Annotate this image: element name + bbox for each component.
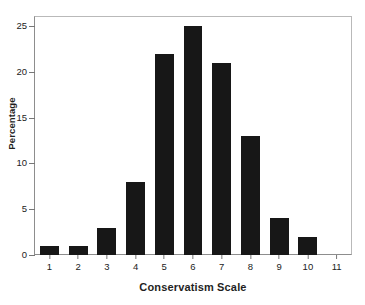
x-axis-tick-label: 2 (75, 261, 80, 272)
bar (298, 237, 317, 255)
x-axis-tick: 1 (47, 255, 52, 272)
x-axis-tick-label: 8 (248, 261, 253, 272)
y-axis-tick-label: 25 (16, 20, 27, 31)
x-axis-tick-mark (279, 255, 280, 259)
x-axis-tick-mark (135, 255, 136, 259)
x-axis-tick-mark (250, 255, 251, 259)
x-axis-tick: 6 (190, 255, 195, 272)
x-axis-tick: 10 (303, 255, 314, 272)
bar (184, 26, 203, 255)
x-axis-tick-mark (78, 255, 79, 259)
x-axis-tick: 9 (277, 255, 282, 272)
x-axis-tick-mark (307, 255, 308, 259)
x-axis-title: Conservatism Scale (34, 281, 352, 293)
bar (212, 63, 231, 255)
x-axis-tick-mark (164, 255, 165, 259)
x-axis-tick-label: 3 (104, 261, 109, 272)
bar (126, 182, 145, 255)
x-axis-tick-mark (49, 255, 50, 259)
x-axis-tick-mark (192, 255, 193, 259)
y-axis-tick-label: 0 (22, 249, 27, 260)
x-axis-tick-mark (336, 255, 337, 259)
x-axis-tick: 8 (248, 255, 253, 272)
x-axis-tick-label: 10 (303, 261, 314, 272)
bar (241, 136, 260, 255)
x-axis-tick-label: 7 (219, 261, 224, 272)
x-axis-tick: 11 (332, 255, 342, 272)
y-axis-tick-label: 20 (16, 66, 27, 77)
x-axis-tick-label: 11 (332, 261, 342, 272)
bar (155, 54, 174, 255)
plot-area (35, 17, 351, 255)
x-axis-tick-label: 4 (133, 261, 138, 272)
x-axis-tick-label: 6 (190, 261, 195, 272)
x-axis-tick-label: 9 (277, 261, 282, 272)
y-axis-tick-label: 15 (16, 112, 27, 123)
x-axis-tick-label: 1 (47, 261, 52, 272)
bar (270, 218, 289, 255)
x-axis-tick-mark (106, 255, 107, 259)
bar-chart: 0510152025 Percentage 1234567891011 Cons… (0, 0, 365, 305)
x-axis-tick: 4 (133, 255, 138, 272)
y-axis-tick-label: 5 (22, 203, 27, 214)
x-axis-tick: 3 (104, 255, 109, 272)
bar (97, 228, 116, 255)
x-axis-tick: 7 (219, 255, 224, 272)
x-axis-tick-mark (221, 255, 222, 259)
x-axis-tick-label: 5 (162, 261, 167, 272)
x-axis-tick: 5 (162, 255, 167, 272)
y-axis-title: Percentage (6, 74, 17, 174)
x-axis-tick: 2 (75, 255, 80, 272)
y-axis-tick-label: 10 (16, 157, 27, 168)
bar (40, 246, 59, 255)
bar (69, 246, 88, 255)
